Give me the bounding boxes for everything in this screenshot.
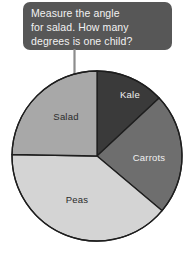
pie-label-salad: Salad (53, 111, 78, 122)
pie-label-peas: Peas (66, 194, 89, 205)
instruction-callout: Measure the angle for salad. How many de… (23, 2, 172, 50)
callout-line-2: for salad. How many (31, 20, 165, 34)
pie-label-kale: Kale (120, 89, 140, 100)
pie-label-carrots: Carrots (133, 152, 166, 163)
callout-line-1: Measure the angle (31, 6, 165, 20)
pie-chart: KaleCarrotsPeasSalad (8, 66, 190, 250)
callout-line-3: degrees is one child? (31, 34, 165, 48)
worksheet-figure: Measure the angle for salad. How many de… (0, 0, 196, 264)
